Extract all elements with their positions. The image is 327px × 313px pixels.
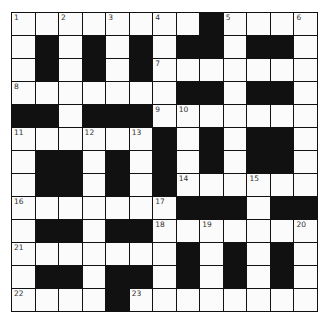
answer-cell[interactable] [200,59,223,81]
answer-cell[interactable]: 12 [83,128,106,150]
answer-cell[interactable] [83,13,106,35]
answer-cell[interactable] [59,243,82,265]
answer-cell[interactable] [153,82,176,104]
answer-cell[interactable] [294,266,317,288]
answer-cell[interactable] [36,197,59,219]
answer-cell[interactable] [83,174,106,196]
answer-cell[interactable] [106,82,129,104]
answer-cell[interactable] [153,289,176,311]
answer-cell[interactable] [12,220,35,242]
answer-cell[interactable] [83,220,106,242]
answer-cell[interactable]: 22 [12,289,35,311]
answer-cell[interactable] [130,151,153,173]
answer-cell[interactable] [83,82,106,104]
answer-cell[interactable]: 20 [294,220,317,242]
answer-cell[interactable] [224,105,247,127]
answer-cell[interactable]: 11 [12,128,35,150]
answer-cell[interactable] [36,289,59,311]
answer-cell[interactable]: 16 [12,197,35,219]
answer-cell[interactable] [247,289,270,311]
answer-cell[interactable] [130,243,153,265]
answer-cell[interactable] [12,151,35,173]
answer-cell[interactable] [106,59,129,81]
answer-cell[interactable] [153,36,176,58]
answer-cell[interactable] [200,105,223,127]
answer-cell[interactable]: 5 [224,13,247,35]
answer-cell[interactable]: 3 [106,13,129,35]
answer-cell[interactable] [224,220,247,242]
answer-cell[interactable] [271,13,294,35]
answer-cell[interactable] [294,36,317,58]
answer-cell[interactable] [247,105,270,127]
answer-cell[interactable]: 19 [200,220,223,242]
answer-cell[interactable] [59,82,82,104]
answer-cell[interactable] [83,243,106,265]
answer-cell[interactable] [59,105,82,127]
answer-cell[interactable] [59,128,82,150]
answer-cell[interactable] [247,243,270,265]
answer-cell[interactable] [12,174,35,196]
answer-cell[interactable] [177,128,200,150]
answer-cell[interactable] [153,243,176,265]
answer-cell[interactable] [12,36,35,58]
answer-cell[interactable] [106,243,129,265]
answer-cell[interactable] [224,289,247,311]
answer-cell[interactable]: 10 [177,105,200,127]
answer-cell[interactable] [294,151,317,173]
answer-cell[interactable] [294,128,317,150]
answer-cell[interactable] [130,197,153,219]
answer-cell[interactable]: 13 [130,128,153,150]
answer-cell[interactable]: 1 [12,13,35,35]
answer-cell[interactable] [271,174,294,196]
answer-cell[interactable]: 18 [153,220,176,242]
answer-cell[interactable] [106,36,129,58]
answer-cell[interactable] [153,266,176,288]
answer-cell[interactable] [224,174,247,196]
answer-cell[interactable] [224,59,247,81]
answer-cell[interactable] [271,220,294,242]
answer-cell[interactable]: 9 [153,105,176,127]
answer-cell[interactable] [294,82,317,104]
answer-cell[interactable] [247,59,270,81]
answer-cell[interactable] [247,220,270,242]
answer-cell[interactable] [59,289,82,311]
answer-cell[interactable]: 2 [59,13,82,35]
answer-cell[interactable] [200,266,223,288]
answer-cell[interactable] [294,243,317,265]
answer-cell[interactable] [130,174,153,196]
answer-cell[interactable] [59,197,82,219]
answer-cell[interactable] [247,266,270,288]
answer-cell[interactable] [200,243,223,265]
answer-cell[interactable] [36,128,59,150]
answer-cell[interactable] [271,59,294,81]
answer-cell[interactable] [12,59,35,81]
answer-cell[interactable] [177,151,200,173]
answer-cell[interactable] [200,289,223,311]
answer-cell[interactable]: 6 [294,13,317,35]
answer-cell[interactable]: 14 [177,174,200,196]
answer-cell[interactable] [12,266,35,288]
answer-cell[interactable] [177,59,200,81]
answer-cell[interactable] [83,266,106,288]
answer-cell[interactable] [177,220,200,242]
answer-cell[interactable] [224,128,247,150]
answer-cell[interactable] [294,174,317,196]
answer-cell[interactable]: 8 [12,82,35,104]
answer-cell[interactable] [106,128,129,150]
answer-cell[interactable]: 23 [130,289,153,311]
answer-cell[interactable] [271,289,294,311]
answer-cell[interactable] [224,82,247,104]
answer-cell[interactable] [224,36,247,58]
answer-cell[interactable] [106,197,129,219]
answer-cell[interactable] [177,289,200,311]
answer-cell[interactable] [247,197,270,219]
answer-cell[interactable] [294,59,317,81]
answer-cell[interactable]: 17 [153,197,176,219]
answer-cell[interactable] [36,13,59,35]
answer-cell[interactable] [177,13,200,35]
answer-cell[interactable]: 21 [12,243,35,265]
answer-cell[interactable]: 7 [153,59,176,81]
answer-cell[interactable] [83,197,106,219]
answer-cell[interactable] [36,82,59,104]
answer-cell[interactable] [59,36,82,58]
